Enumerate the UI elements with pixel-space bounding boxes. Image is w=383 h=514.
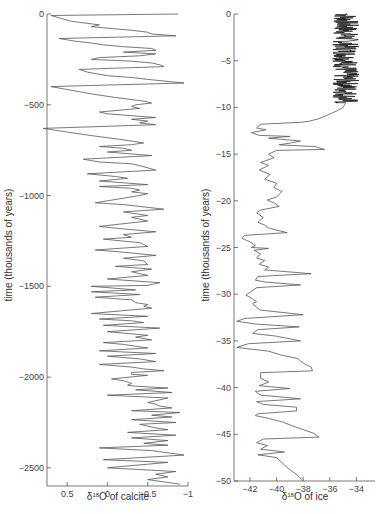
y-tick-label: −10 (216, 102, 231, 112)
y-tick-label: −500 (24, 100, 44, 110)
y-tick-label: −20 (216, 196, 231, 206)
y-tick-label: −15 (216, 149, 231, 159)
y-tick-label: 0 (39, 9, 44, 19)
x-tick-label: −42 (242, 484, 257, 494)
y-tick-label: −2500 (19, 463, 44, 473)
calcite-chart: 0−500−1000−1500−2000−25000.50−0.5−1 δ18O… (3, 9, 193, 502)
y-tick-label: −25 (216, 243, 231, 253)
calcite-series-line (43, 14, 184, 484)
x-tick-label: −34 (349, 484, 364, 494)
y-tick-label: −2000 (19, 372, 44, 382)
paleoclimate-figure: 0−500−1000−1500−2000−25000.50−0.5−1 δ18O… (0, 0, 383, 514)
calcite-x-axis-label: δ18O of calcite (87, 491, 150, 502)
ice-x-axis-label: δ18O of ice (282, 491, 329, 502)
x-tick-label: 0.5 (61, 489, 74, 499)
ice-holocene-band (333, 14, 359, 103)
y-tick-label: −50 (216, 476, 231, 486)
y-tick-label: −30 (216, 289, 231, 299)
ice-y-axis-label: time (thousands of years) (200, 189, 211, 302)
y-tick-label: −1000 (19, 191, 44, 201)
calcite-axes: 0−500−1000−1500−2000−25000.50−0.5−1 (19, 9, 193, 499)
y-tick-label: 0 (226, 9, 231, 19)
y-tick-label: −1500 (19, 281, 44, 291)
ice-chart: 0−5−10−15−20−25−30−35−40−45−50−42−40−38−… (200, 9, 375, 502)
y-tick-label: −35 (216, 336, 231, 346)
y-tick-label: −40 (216, 383, 231, 393)
ice-axes: 0−5−10−15−20−25−30−35−40−45−50−42−40−38−… (216, 9, 375, 494)
y-tick-label: −5 (221, 56, 231, 66)
y-tick-label: −45 (216, 429, 231, 439)
ice-series-line (237, 103, 346, 481)
x-tick-label: −1 (183, 489, 193, 499)
calcite-y-axis-label: time (thousands of years) (3, 189, 14, 302)
